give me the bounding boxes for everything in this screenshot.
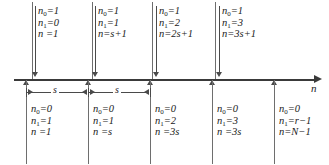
bottom-5-n0: n0=0 <box>279 103 311 115</box>
bottom-2-n1: n1=1 <box>93 115 114 127</box>
bottom-1-n0: n0=0 <box>31 103 52 115</box>
span-label-2: s <box>113 84 121 95</box>
separator-rule-bottom-4 <box>212 80 213 164</box>
top-4-n0: n0=1 <box>222 5 256 17</box>
bottom-3-n1: n1=2 <box>155 115 179 127</box>
top-4-n1: n1=3 <box>222 17 256 29</box>
separator-rule-top-2 <box>92 2 93 79</box>
bottom-3-n0: n0=0 <box>155 103 179 115</box>
bottom-5-n1: n1=r−1 <box>279 115 311 127</box>
bottom-2-n: n =s <box>93 126 114 138</box>
top-annotation-2: n0=1 n1=1 n=s+1 <box>98 5 127 40</box>
separator-rule-top-4 <box>215 2 216 79</box>
span-arrowhead-1-left <box>28 89 33 95</box>
separator-rule-bottom-5 <box>274 80 275 164</box>
bottom-annotation-1: n0=0 n1=1 n =1 <box>31 103 52 138</box>
top-annotation-1: n0=1 n1=0 n =1 <box>38 5 59 40</box>
top-3-n0: n0=1 <box>159 5 193 17</box>
span-arrowhead-2-left <box>90 89 95 95</box>
span-arrowhead-2-right <box>144 89 149 95</box>
n-axis-label: n <box>311 82 317 94</box>
pointer-arrowhead-2 <box>92 72 98 77</box>
top-1-n0: n0=1 <box>38 5 59 17</box>
bottom-1-n1: n1=1 <box>31 115 52 127</box>
pointer-arrowhead-4 <box>216 72 222 77</box>
bottom-annotation-2: n0=0 n1=1 n =s <box>93 103 114 138</box>
separator-rule-top-1 <box>32 2 33 79</box>
bottom-4-n1: n1=3 <box>217 115 241 127</box>
pointer-arrow-2 <box>95 6 96 72</box>
bottom-annotation-5: n0=0 n1=r−1 n=N−1 <box>279 103 311 138</box>
bottom-annotation-3: n0=0 n1=2 n =3s <box>155 103 179 138</box>
top-annotation-4: n0=1 n1=3 n=3s+1 <box>222 5 256 40</box>
number-line-diagram: n s s n0=1 n1=0 n =1 n0=1 n1=1 n=s+1 n0=… <box>0 0 329 165</box>
top-1-n1: n1=0 <box>38 17 59 29</box>
pointer-arrow-4 <box>219 6 220 72</box>
bottom-4-n0: n0=0 <box>217 103 241 115</box>
span-arrowhead-1-right <box>82 89 87 95</box>
bottom-annotation-4: n0=0 n1=3 n =3s <box>217 103 241 138</box>
bottom-4-n: n =3s <box>217 126 241 138</box>
top-3-n1: n1=2 <box>159 17 193 29</box>
top-annotation-3: n0=1 n1=2 n=2s+1 <box>159 5 193 40</box>
pointer-arrowhead-1 <box>32 72 38 77</box>
span-label-1: s <box>51 84 59 95</box>
top-2-n0: n0=1 <box>98 5 127 17</box>
bottom-2-n0: n0=0 <box>93 103 114 115</box>
separator-rule-top-3 <box>152 2 153 79</box>
span-cap-2-right <box>150 88 151 97</box>
top-1-n: n =1 <box>38 28 59 40</box>
pointer-arrow-1 <box>35 6 36 72</box>
pointer-arrowhead-3 <box>153 72 159 77</box>
bottom-1-n: n =1 <box>31 126 52 138</box>
top-2-n1: n1=1 <box>98 17 127 29</box>
bottom-3-n: n =3s <box>155 126 179 138</box>
pointer-arrow-3 <box>156 6 157 72</box>
